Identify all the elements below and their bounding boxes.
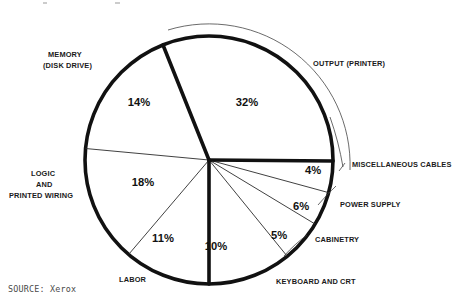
slice-value-power-supply: 6% [293,200,309,212]
slice-value-logic: 18% [132,176,154,188]
slice-label-logic-line2: AND [36,180,53,189]
slice-label-output-printer: OUTPUT (PRINTER) [313,59,386,68]
slice-value-memory: 14% [128,96,150,108]
pie-chart-figure: 32% 14% 18% 11% 10% 5% 6% 4% MEMORY (DIS… [0,0,468,305]
slice-value-misc-cables: 4% [305,164,321,176]
slice-value-labor: 11% [152,232,174,244]
slice-value-output: 32% [236,96,258,108]
slice-value-keyboard: 10% [205,240,227,252]
slice-label-memory-line1: MEMORY [48,50,82,59]
slice-separator-output-misc [209,160,333,161]
slice-label-logic-line1: LOGIC [31,169,56,178]
slice-label-power-supply: POWER SUPPLY [340,200,401,209]
source-note: SOURCE: Xerox [8,284,76,294]
pie-chart-svg: 32% 14% 18% 11% 10% 5% 6% 4% MEMORY (DIS… [0,0,468,305]
slice-label-logic-line3: PRINTED WIRING [9,191,73,200]
slice-label-misc-cables: MISCELLANEOUS CABLES [352,160,452,169]
slice-label-labor: LABOR [119,275,147,284]
scan-artifact [43,2,47,4]
slice-label-keyboard-crt: KEYBOARD AND CRT [276,277,356,286]
slice-value-cabinetry: 5% [271,229,287,241]
leader-misc-cables [339,163,345,171]
slice-label-cabinetry: CABINETRY [315,235,359,244]
slice-label-memory-line2: (DISK DRIVE) [43,61,92,70]
scan-artifact [115,2,120,4]
